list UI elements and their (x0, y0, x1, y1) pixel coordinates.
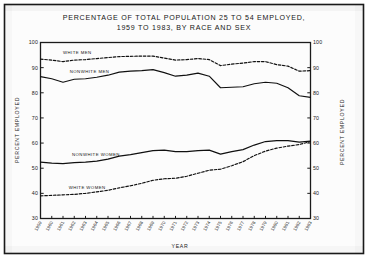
y-axis-title-left: PERCENT EMPLOYED (14, 97, 20, 163)
chart-title-line-1: PERCENTAGE OF TOTAL POPULATION 25 TO 54 … (63, 14, 306, 22)
y-axis-title-right: PERCENT EMPLOYED (339, 99, 345, 165)
y-tick-label-right: 30 (313, 215, 319, 221)
y-tick-label-right: 100 (313, 39, 322, 45)
y-tick-label-right: 50 (313, 165, 319, 171)
y-tick-label-left: 60 (32, 140, 38, 146)
series-label-white-men: WHITE MEN (63, 50, 92, 55)
y-tick-label-left: 50 (32, 165, 38, 171)
series-label-white-women: WHITE WOMEN (69, 185, 106, 190)
series-label-nonwhite-men: NONWHITE MEN (70, 69, 110, 74)
y-tick-label-right: 90 (313, 65, 319, 71)
chart-figure: PERCENTAGE OF TOTAL POPULATION 25 TO 54 … (0, 0, 368, 258)
chart-title-line-2: 1959 TO 1983, BY RACE AND SEX (117, 24, 252, 32)
y-tick-label-left: 70 (32, 115, 38, 121)
y-tick-label-right: 60 (313, 140, 319, 146)
y-tick-label-right: 70 (313, 115, 319, 121)
y-tick-label-left: 80 (32, 90, 38, 96)
y-tick-label-left: 100 (29, 39, 38, 45)
y-tick-label-right: 80 (313, 90, 319, 96)
y-tick-label-right: 40 (313, 190, 319, 196)
y-tick-label-left: 30 (32, 215, 38, 221)
x-axis-title: YEAR (172, 243, 189, 249)
series-label-nonwhite-women: NONWHITE WOMEN (72, 152, 120, 157)
y-tick-label-left: 40 (32, 190, 38, 196)
y-tick-label-left: 90 (32, 65, 38, 71)
